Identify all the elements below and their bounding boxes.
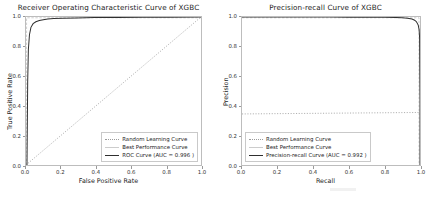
bottom-edge-artifact — [330, 188, 356, 191]
pr-xtick-label-4: 0.8 — [381, 169, 390, 175]
pr-series-random-learning-curve — [242, 112, 420, 113]
pr-legend-item-random: Random Learning Curve — [249, 135, 367, 143]
roc-legend-label-random: Random Learning Curve — [122, 135, 187, 143]
roc-ytick-mark-3 — [23, 76, 26, 77]
roc-legend-label-roc: ROC Curve (AUC = 0.996 ) — [122, 151, 194, 159]
legend-line-dashed-icon — [105, 147, 119, 148]
pr-yaxis-label: Precision — [222, 77, 230, 106]
pr-xtick-label-5: 1.0 — [417, 169, 426, 175]
roc-xaxis-label: False Positive Rate — [0, 177, 217, 185]
pr-legend-label-random: Random Learning Curve — [266, 135, 331, 143]
roc-legend-item-best: Best Performance Curve — [105, 143, 194, 151]
pr-xtick-label-3: 0.6 — [345, 169, 354, 175]
pr-chart-title: Precision-recall Curve of XGBC — [217, 3, 434, 12]
roc-xtick-label-5: 1.0 — [198, 169, 207, 175]
pr-ytick-label-4: 0.8 — [222, 43, 237, 49]
legend-line-solid-icon — [105, 155, 119, 156]
pr-ytick-mark-4 — [239, 46, 242, 47]
roc-xtick-label-4: 0.8 — [162, 169, 171, 175]
pr-xaxis-label: Recall — [217, 177, 434, 185]
roc-xtick-label-3: 0.6 — [127, 169, 136, 175]
roc-ytick-label-4: 0.8 — [6, 43, 21, 49]
pr-ytick-label-5: 1.0 — [222, 13, 237, 19]
roc-ytick-mark-5 — [23, 16, 26, 17]
roc-legend-item-random: Random Learning Curve — [105, 135, 194, 143]
pr-legend-label-pr: Precision-recall Curve (AUC = 0.992 ) — [266, 151, 367, 159]
pr-legend-item-best: Best Performance Curve — [249, 143, 367, 151]
pr-ytick-mark-2 — [239, 106, 242, 107]
roc-ytick-label-1: 0.2 — [6, 133, 21, 139]
roc-chart: Receiver Operating Characteristic Curve … — [0, 0, 217, 198]
pr-ytick-label-1: 0.2 — [222, 133, 237, 139]
roc-ytick-label-0: 0.0 — [6, 163, 21, 169]
roc-xtick-label-1: 0.2 — [56, 169, 65, 175]
pr-xtick-label-0: 0.0 — [237, 169, 246, 175]
pr-legend-label-best: Best Performance Curve — [266, 143, 331, 151]
figure-canvas: Receiver Operating Characteristic Curve … — [0, 0, 434, 198]
pr-ytick-mark-1 — [239, 136, 242, 137]
legend-line-solid-icon — [249, 155, 263, 156]
pr-ytick-mark-0 — [239, 166, 242, 167]
roc-ytick-mark-1 — [23, 136, 26, 137]
roc-ytick-mark-0 — [23, 166, 26, 167]
roc-ytick-mark-2 — [23, 106, 26, 107]
roc-legend: Random Learning Curve Best Performance C… — [101, 132, 198, 162]
pr-xtick-label-2: 0.4 — [309, 169, 318, 175]
roc-xtick-label-2: 0.4 — [92, 169, 101, 175]
pr-ytick-label-0: 0.0 — [222, 163, 237, 169]
legend-line-dashed-icon — [249, 147, 263, 148]
roc-legend-item-roc: ROC Curve (AUC = 0.996 ) — [105, 151, 194, 159]
legend-line-dotted-icon — [249, 139, 263, 140]
pr-legend-item-pr: Precision-recall Curve (AUC = 0.992 ) — [249, 151, 367, 159]
roc-ytick-label-5: 1.0 — [6, 13, 21, 19]
legend-line-dotted-icon — [105, 139, 119, 140]
roc-xtick-label-0: 0.0 — [21, 169, 30, 175]
roc-ytick-mark-4 — [23, 46, 26, 47]
pr-chart: Precision-recall Curve of XGBC Random Le… — [217, 0, 434, 198]
roc-legend-label-best: Best Performance Curve — [122, 143, 187, 151]
pr-ytick-mark-5 — [239, 16, 242, 17]
pr-plot-area: Random Learning Curve Best Performance C… — [241, 16, 421, 166]
pr-ytick-mark-3 — [239, 76, 242, 77]
roc-chart-title: Receiver Operating Characteristic Curve … — [0, 3, 217, 12]
pr-legend: Random Learning Curve Best Performance C… — [245, 132, 371, 162]
roc-yaxis-label: True Positive Rate — [6, 73, 14, 130]
roc-plot-area: Random Learning Curve Best Performance C… — [25, 16, 202, 166]
pr-xtick-label-1: 0.2 — [273, 169, 282, 175]
